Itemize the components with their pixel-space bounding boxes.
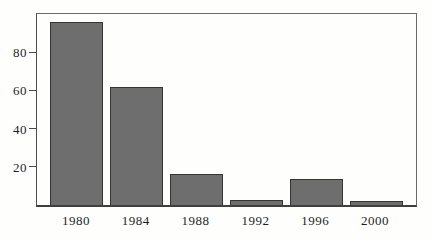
x-label-1988: 1988 xyxy=(182,213,210,229)
y-tick-label-80: 80 xyxy=(1,46,27,59)
bar-1988 xyxy=(170,174,223,205)
bar-1992 xyxy=(230,200,283,205)
x-axis-labels: 198019841988199219962000 xyxy=(36,211,417,233)
y-tick-label-40: 40 xyxy=(1,122,27,135)
y-tick-80 xyxy=(29,52,36,53)
y-tick-60 xyxy=(29,90,36,91)
x-label-2000: 2000 xyxy=(361,213,389,229)
x-label-1996: 1996 xyxy=(301,213,329,229)
bar-1984 xyxy=(110,87,163,205)
bar-1980 xyxy=(50,22,103,205)
bar-2000 xyxy=(350,201,403,205)
x-label-1980: 1980 xyxy=(62,213,90,229)
x-label-1992: 1992 xyxy=(241,213,269,229)
y-tick-label-20: 20 xyxy=(1,160,27,173)
x-label-1984: 1984 xyxy=(122,213,150,229)
y-tick-label-60: 60 xyxy=(1,84,27,97)
y-tick-40 xyxy=(29,128,36,129)
bar-chart-figure: 20406080 198019841988199219962000 xyxy=(0,0,432,240)
bar-1996 xyxy=(290,179,343,205)
y-tick-20 xyxy=(29,166,36,167)
plot-area: 20406080 xyxy=(36,13,417,207)
